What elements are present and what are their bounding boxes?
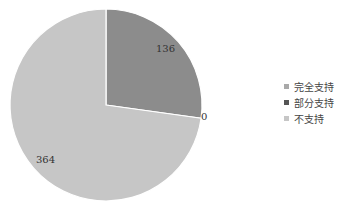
legend-label-fully-supported: 完全支持: [294, 79, 334, 94]
chart-legend: 完全支持 部分支持 不支持: [284, 78, 334, 126]
slice-partially-supported: [106, 9, 202, 118]
data-label-not-supported: 364: [36, 154, 55, 165]
legend-swatch-not-supported: [284, 116, 289, 121]
legend-item-not-supported: 不支持: [284, 110, 334, 126]
data-label-partially-supported: 136: [156, 43, 175, 54]
legend-item-partially-supported: 部分支持: [284, 94, 334, 110]
legend-swatch-fully-supported: [284, 84, 289, 89]
data-label-fully-supported: 0: [201, 111, 207, 122]
legend-swatch-partially-supported: [284, 100, 289, 105]
legend-label-not-supported: 不支持: [294, 111, 324, 126]
legend-item-fully-supported: 完全支持: [284, 78, 334, 94]
legend-label-partially-supported: 部分支持: [294, 95, 334, 110]
pie-slices: [10, 9, 202, 201]
